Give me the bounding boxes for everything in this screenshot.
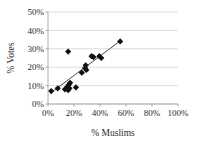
x-axis-tick-label: 60%	[118, 108, 135, 118]
x-axis-tick-label: 80%	[144, 108, 161, 118]
chart-canvas: 0%10%20%30%40%50%0%20%40%60%80%100%% Mus…	[0, 0, 198, 141]
data-point-marker	[48, 88, 54, 94]
y-tick-labels-group: 0%10%20%30%40%50%	[28, 7, 45, 109]
x-tick-labels-group: 0%20%40%60%80%100%	[42, 108, 189, 118]
y-axis-tick-label: 10%	[28, 81, 45, 91]
x-axis-tick-label: 100%	[168, 108, 190, 118]
data-point-marker	[65, 48, 71, 54]
y-axis-title: % Votes	[6, 42, 16, 73]
x-axis-tick-label: 20%	[66, 108, 83, 118]
x-axis-title: % Muslims	[91, 128, 135, 138]
y-axis-tick-label: 50%	[28, 7, 45, 17]
y-axis-tick-label: 40%	[28, 26, 45, 36]
x-axis-tick-label: 40%	[92, 108, 109, 118]
scatter-chart: 0%10%20%30%40%50%0%20%40%60%80%100%% Mus…	[0, 0, 198, 141]
axes-group	[46, 12, 179, 107]
data-point-marker	[117, 38, 123, 44]
y-axis-tick-label: 20%	[28, 62, 45, 72]
y-axis-tick-label: 30%	[28, 44, 45, 54]
x-axis-tick-label: 0%	[42, 108, 55, 118]
